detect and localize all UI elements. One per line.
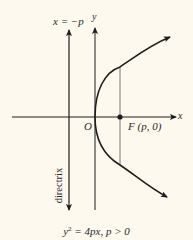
directrix-label: directrix [53,161,64,211]
equation-rhs: = 4px, p > 0 [72,225,130,237]
directrix-equation-label: x = −p [53,16,84,27]
y-axis-label: y [92,12,96,22]
equation-caption: y2 = 4px, p > 0 [0,225,193,237]
focus-label: F (p, 0) [128,121,161,132]
focus-point [117,114,122,119]
parabola-diagram: x = −p y x O F (p, 0) directrix y2 = 4px… [0,0,193,240]
x-axis-label: x [178,111,182,121]
origin-label: O [84,121,92,132]
parabola-upper-branch [95,37,170,117]
diagram-canvas [0,0,193,240]
